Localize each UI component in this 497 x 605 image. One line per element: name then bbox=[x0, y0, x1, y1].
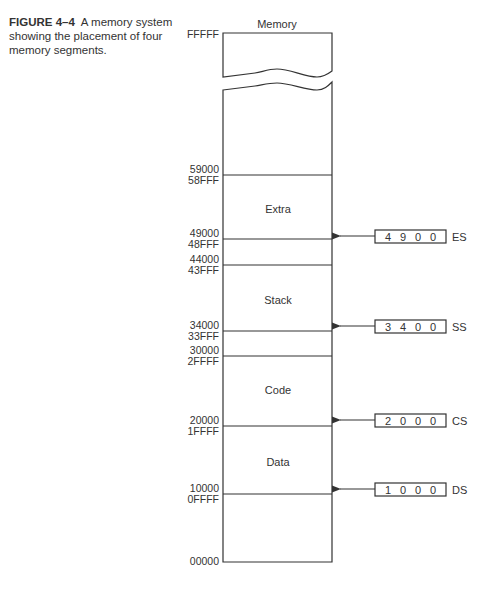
segment-label-stack: Stack bbox=[264, 294, 292, 306]
register-digit: 0 bbox=[430, 484, 436, 496]
address-label: 58FFF bbox=[188, 174, 219, 186]
address-label-bottom: 00000 bbox=[190, 555, 219, 567]
address-labels: 59000 58FFF 49000 48FFF 44000 43FFF 3400… bbox=[188, 163, 220, 567]
register-digit: 0 bbox=[430, 415, 436, 427]
register-digit: 0 bbox=[430, 231, 436, 243]
register-es: 4 9 0 0 ES bbox=[340, 230, 467, 243]
memory-block-main bbox=[223, 82, 332, 562]
memory-title: Memory bbox=[257, 18, 297, 30]
register-ss: 3 4 0 0 SS bbox=[340, 320, 467, 333]
register-digit: 0 bbox=[415, 484, 421, 496]
address-label: 43FFF bbox=[188, 264, 219, 276]
register-digit: 0 bbox=[400, 484, 406, 496]
register-name: DS bbox=[452, 484, 467, 496]
register-name: SS bbox=[452, 321, 467, 333]
segment-label-code: Code bbox=[265, 384, 291, 396]
register-digit: 4 bbox=[400, 321, 406, 333]
address-label-top: FFFFF bbox=[187, 28, 219, 40]
register-ds: 1 0 0 0 DS bbox=[340, 483, 467, 496]
register-digit: 4 bbox=[385, 231, 391, 243]
memory-block-top-fragment bbox=[223, 33, 332, 77]
address-label: 48FFF bbox=[188, 238, 219, 250]
address-label: 2FFFF bbox=[188, 355, 220, 367]
register-digit: 3 bbox=[385, 321, 391, 333]
register-digit: 9 bbox=[400, 231, 406, 243]
register-digit: 0 bbox=[415, 321, 421, 333]
address-label: 0FFFF bbox=[188, 493, 220, 505]
address-label: 33FFF bbox=[188, 330, 219, 342]
register-digit: 0 bbox=[430, 321, 436, 333]
register-name: CS bbox=[452, 415, 467, 427]
register-digit: 1 bbox=[385, 484, 391, 496]
segment-label-data: Data bbox=[266, 456, 290, 468]
segment-label-extra: Extra bbox=[265, 203, 292, 215]
register-name: ES bbox=[452, 231, 467, 243]
register-digit: 0 bbox=[415, 231, 421, 243]
register-digit: 0 bbox=[400, 415, 406, 427]
register-digit: 2 bbox=[385, 415, 391, 427]
memory-diagram: Memory FFFFF 59000 58FFF 49000 48FFF 440… bbox=[0, 0, 497, 605]
register-digit: 0 bbox=[415, 415, 421, 427]
address-label: 1FFFF bbox=[188, 425, 220, 437]
register-cs: 2 0 0 0 CS bbox=[340, 414, 467, 427]
